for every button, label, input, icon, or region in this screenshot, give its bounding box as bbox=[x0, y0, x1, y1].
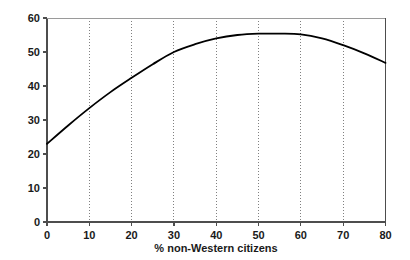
x-tick-label: 50 bbox=[252, 230, 264, 241]
y-tick-label: 0 bbox=[34, 217, 40, 228]
y-tick-label: 50 bbox=[28, 47, 40, 58]
x-tick-label: 20 bbox=[126, 230, 138, 241]
y-tick-label: 60 bbox=[28, 13, 40, 24]
y-tick-label: 10 bbox=[28, 183, 40, 194]
x-tick-label: 70 bbox=[337, 230, 349, 241]
data-series-group bbox=[47, 34, 386, 144]
x-tick-label: 10 bbox=[83, 230, 95, 241]
y-tick-label: 40 bbox=[28, 81, 40, 92]
plot-canvas bbox=[0, 0, 410, 260]
gridlines-group bbox=[89, 18, 343, 222]
x-tick-label: 0 bbox=[44, 230, 50, 241]
chart-figure: 0102030405060 01020304050607080 % non-We… bbox=[0, 0, 410, 260]
series-line bbox=[47, 34, 386, 144]
x-tick-label: 40 bbox=[210, 230, 222, 241]
x-tick-label: 80 bbox=[379, 230, 391, 241]
y-tick-label: 30 bbox=[28, 115, 40, 126]
x-tick-label: 60 bbox=[295, 230, 307, 241]
y-tick-label: 20 bbox=[28, 149, 40, 160]
x-axis-title: % non-Western citizens bbox=[154, 243, 277, 254]
tick-marks-group bbox=[43, 18, 386, 226]
x-tick-label: 30 bbox=[168, 230, 180, 241]
